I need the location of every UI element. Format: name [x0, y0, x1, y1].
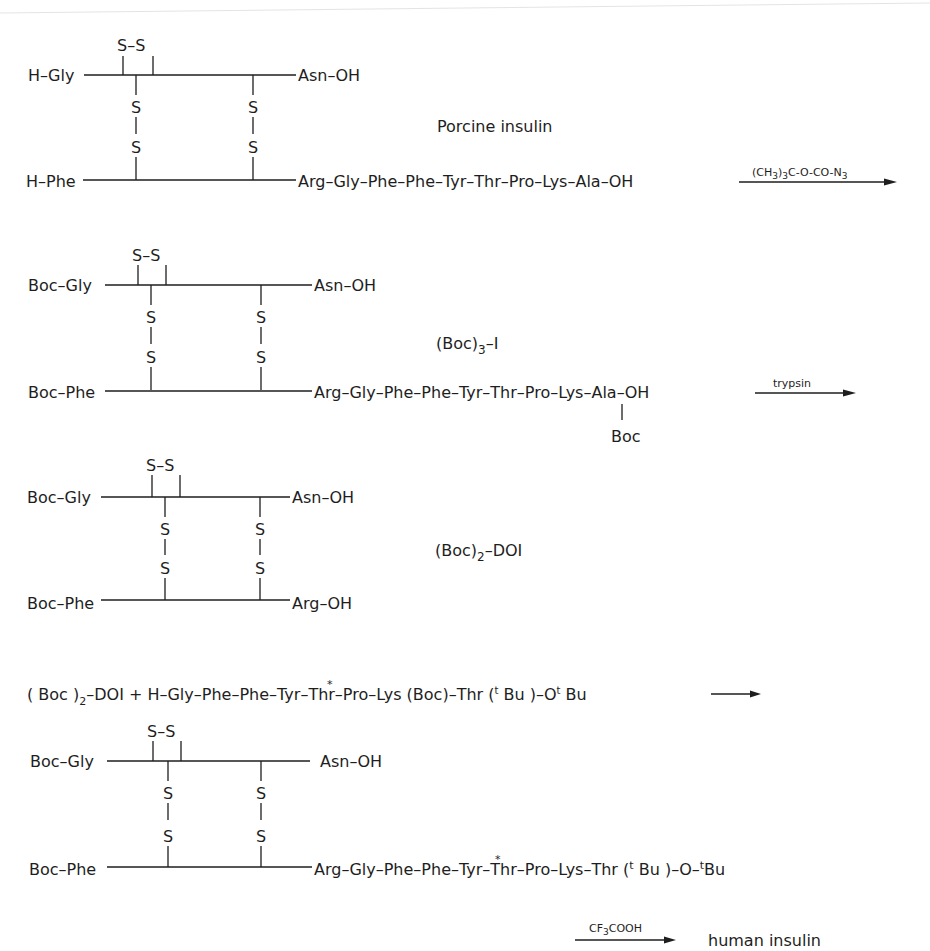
arrow-head-icon	[884, 179, 897, 186]
structure-protected-human-insulin: Boc–Gly Asn–OH S–S S S S S Boc–Phe Arg–G…	[29, 722, 725, 879]
sulfur-atom: S	[248, 138, 258, 157]
sulfur-atom: S	[146, 308, 156, 327]
reaction-scheme: H–Gly Asn–OH S–S S S S S H–Phe Arg–Gly–P…	[0, 0, 930, 951]
sulfur-atom: S	[131, 138, 141, 157]
b-chain-c-terminus: Arg–Gly–Phe–Phe–Tyr–Thr–Pro–Lys–Ala–OH	[298, 172, 633, 191]
arrow-head-icon	[664, 937, 676, 944]
sulfur-atom: S	[146, 348, 156, 367]
sulfur-atom: S	[248, 98, 258, 117]
sulfur-atom: S	[256, 784, 266, 803]
compound-name: Porcine insulin	[437, 117, 553, 136]
scan-edge-line	[0, 3, 930, 13]
reaction-arrow-tfa: CF3COOH human insulin	[575, 922, 821, 950]
b-chain-c-terminus: Arg–OH	[292, 594, 352, 613]
coupling-reactants: ( Boc )2–DOI + H–Gly–Phe–Phe–Tyr–Thr–Pro…	[27, 685, 587, 708]
intrachain-disulfide: S–S	[147, 722, 175, 741]
coupling-equation: ( Boc )2–DOI + H–Gly–Phe–Phe–Tyr–Thr–Pro…	[27, 678, 761, 708]
b-chain-n-terminus: Boc–Phe	[27, 594, 94, 613]
a-chain-n-terminus: Boc–Gly	[27, 488, 91, 507]
a-chain-n-terminus: Boc–Gly	[30, 752, 94, 771]
reagent-label: CF3COOH	[589, 922, 642, 937]
structure-boc2-doi: Boc–Gly Asn–OH S–S S S S S Boc–Phe Arg–O…	[27, 456, 522, 613]
sulfur-atom: S	[160, 520, 170, 539]
b-chain-n-terminus: Boc–Phe	[28, 383, 95, 402]
sulfur-atom: S	[163, 827, 173, 846]
intrachain-disulfide: S–S	[132, 246, 160, 265]
b-chain-c-terminus: Arg–Gly–Phe–Phe–Tyr–Thr–Pro–Lys–Thr (t B…	[314, 859, 725, 879]
label-marker-asterisk: *	[495, 853, 501, 866]
b-chain-n-terminus: H–Phe	[26, 172, 76, 191]
reagent-label: (CH3)3C-O-CO-N3	[752, 166, 847, 181]
a-chain-n-terminus: H–Gly	[28, 66, 74, 85]
sulfur-atom: S	[163, 784, 173, 803]
label-marker-asterisk: *	[327, 678, 333, 691]
b-chain-c-terminus: Arg–Gly–Phe–Phe–Tyr–Thr–Pro–Lys–Ala–OH	[314, 383, 649, 402]
sulfur-atom: S	[160, 559, 170, 578]
reagent-label: trypsin	[773, 377, 811, 390]
arrow-head-icon	[750, 691, 761, 698]
intrachain-disulfide: S–S	[146, 456, 174, 475]
sulfur-atom: S	[256, 308, 266, 327]
b-chain-n-terminus: Boc–Phe	[29, 860, 96, 879]
final-product: human insulin	[708, 931, 821, 950]
a-chain-c-terminus: Asn–OH	[314, 276, 376, 295]
arrow-head-icon	[843, 390, 856, 397]
structure-porcine-insulin: H–Gly Asn–OH S–S S S S S H–Phe Arg–Gly–P…	[26, 36, 633, 191]
sulfur-atom: S	[255, 559, 265, 578]
sulfur-atom: S	[256, 348, 266, 367]
sulfur-atom: S	[256, 827, 266, 846]
sulfur-atom: S	[131, 98, 141, 117]
intrachain-disulfide: S–S	[117, 36, 145, 55]
structure-boc3-insulin: Boc–Gly Asn–OH S–S S S S S Boc–Phe Arg–G…	[28, 246, 649, 446]
a-chain-c-terminus: Asn–OH	[292, 488, 354, 507]
reaction-arrow-boc-azide: (CH3)3C-O-CO-N3	[739, 166, 897, 186]
compound-name: (Boc)3–I	[436, 334, 498, 357]
a-chain-c-terminus: Asn–OH	[320, 752, 382, 771]
sulfur-atom: S	[255, 520, 265, 539]
reaction-arrow-trypsin: trypsin	[755, 377, 856, 397]
a-chain-n-terminus: Boc–Gly	[28, 276, 92, 295]
lys-protecting-group: Boc	[611, 427, 641, 446]
compound-name: (Boc)2–DOI	[435, 541, 522, 564]
a-chain-c-terminus: Asn–OH	[298, 66, 360, 85]
